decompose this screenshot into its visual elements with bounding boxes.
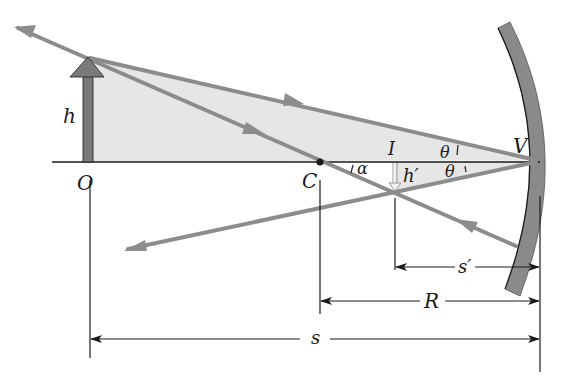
arrowhead-top-ray bbox=[283, 93, 304, 106]
arrowhead-reflected-center bbox=[455, 219, 478, 233]
label-I: I bbox=[387, 138, 396, 159]
label-O: O bbox=[77, 171, 93, 195]
label-theta-upper: θ bbox=[440, 143, 450, 162]
label-alpha: α bbox=[357, 159, 368, 178]
label-C: C bbox=[302, 169, 317, 193]
label-s-prime: s′ bbox=[458, 256, 471, 277]
concave-mirror-diagram: h O C I α h′ θ θ V s′ R s bbox=[0, 0, 582, 386]
center-point-dot bbox=[317, 159, 324, 166]
label-R: R bbox=[423, 289, 439, 313]
label-s: s bbox=[311, 327, 320, 348]
ray-reflected-from-vertex bbox=[128, 162, 536, 249]
label-h-prime: h′ bbox=[403, 165, 419, 186]
arrowhead-lower-left bbox=[124, 240, 147, 251]
label-h: h bbox=[63, 104, 76, 128]
label-V: V bbox=[513, 134, 530, 158]
label-theta-lower: θ bbox=[445, 162, 455, 181]
